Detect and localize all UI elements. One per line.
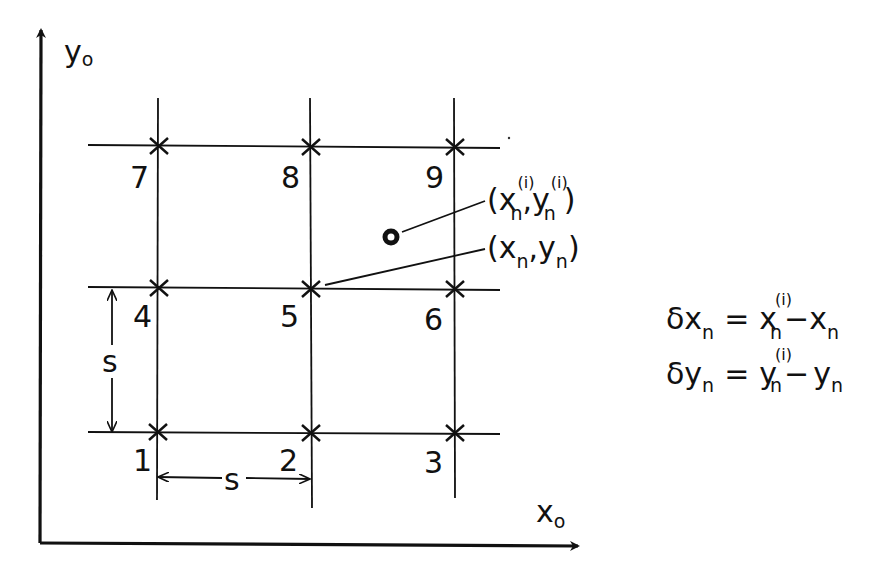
- horizontal-dimension-right: [246, 478, 310, 479]
- stray-mark: [508, 137, 510, 139]
- node-label-2: 2: [279, 443, 298, 478]
- node-label-5: 5: [280, 299, 299, 334]
- diagram-canvas: yo xo 7 8 9 4 5 6 1 2 3 s: [0, 0, 874, 574]
- y-axis: [40, 30, 41, 543]
- equation-dx: δxn=x(i)n−xn: [666, 290, 839, 343]
- node-label-3: 3: [424, 445, 443, 480]
- node-label-8: 8: [281, 160, 300, 195]
- leader-line-reference: [325, 249, 485, 285]
- equation-dy: δyn=y(i)n−yn: [666, 345, 843, 396]
- y-axis-label: yo: [64, 34, 93, 70]
- x-axis: [40, 543, 578, 546]
- measured-point-marker: [385, 231, 397, 243]
- grid-vertical-3: [454, 98, 455, 498]
- vertical-spacing-label: s: [102, 344, 118, 379]
- grid-vertical-1: [157, 98, 158, 500]
- reference-point-label: (xn,yn): [487, 230, 580, 272]
- horizontal-spacing-label: s: [224, 462, 240, 497]
- node-label-1: 1: [133, 443, 152, 478]
- node-label-4: 4: [133, 299, 152, 334]
- horizontal-dimension-left: [158, 477, 222, 478]
- grid-horizontal-mid: [88, 287, 500, 290]
- node-label-6: 6: [424, 302, 443, 337]
- leader-line-measured: [402, 201, 485, 232]
- node-label-9: 9: [425, 160, 444, 195]
- x-axis-label: xo: [536, 494, 565, 532]
- node-label-7: 7: [130, 160, 149, 195]
- grid-horizontal-bot: [88, 432, 500, 434]
- measured-point: [325, 201, 485, 285]
- grid-horizontal-top: [88, 145, 500, 148]
- grid-vertical-2: [310, 98, 312, 508]
- displacement-equations: δxn=x(i)n−xn δyn=y(i)n−yn: [666, 290, 843, 396]
- measured-point-label: (x(i)n,y(i)n): [487, 173, 575, 224]
